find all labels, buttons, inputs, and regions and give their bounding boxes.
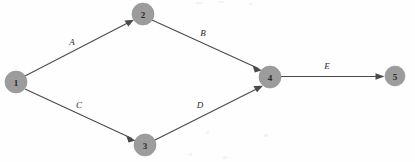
edge-e-arrowhead bbox=[376, 73, 385, 80]
node-4-label: 4 bbox=[268, 73, 273, 83]
paper-artifacts bbox=[189, 1, 268, 159]
edge-label-b: B bbox=[200, 28, 206, 38]
node-3-label: 3 bbox=[143, 141, 148, 151]
edges-layer: A B C D bbox=[25, 20, 385, 143]
edge-e[interactable]: E bbox=[281, 61, 385, 80]
node-5-label: 5 bbox=[393, 72, 398, 82]
network-diagram: A B C D bbox=[0, 0, 415, 162]
edge-a-arrowhead bbox=[125, 20, 135, 27]
edge-label-e: E bbox=[323, 61, 330, 71]
node-5[interactable]: 5 bbox=[385, 66, 405, 86]
diagram-canvas: A B C D bbox=[0, 0, 415, 162]
edge-label-a: A bbox=[68, 37, 75, 47]
edge-label-d: D bbox=[196, 100, 204, 110]
node-2[interactable]: 2 bbox=[132, 3, 154, 25]
edge-a-line bbox=[25, 22, 131, 77]
edge-c[interactable]: C bbox=[25, 89, 136, 142]
edge-label-c: C bbox=[76, 100, 83, 110]
edge-c-line bbox=[25, 89, 132, 139]
edge-d-arrowhead bbox=[253, 86, 263, 93]
node-1[interactable]: 1 bbox=[5, 71, 27, 93]
nodes-layer: 1 2 3 4 5 bbox=[5, 3, 405, 156]
node-4[interactable]: 4 bbox=[259, 66, 281, 88]
edge-a[interactable]: A bbox=[25, 20, 134, 76]
node-1-label: 1 bbox=[14, 78, 19, 88]
edge-b[interactable]: B bbox=[152, 20, 262, 72]
edge-c-arrowhead bbox=[126, 136, 135, 143]
node-3[interactable]: 3 bbox=[134, 134, 156, 156]
node-2-label: 2 bbox=[141, 10, 146, 20]
